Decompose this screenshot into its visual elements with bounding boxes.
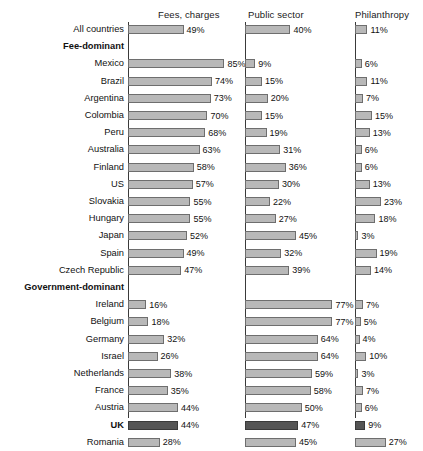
bar — [128, 180, 193, 189]
bar — [245, 145, 280, 154]
bar — [355, 180, 370, 189]
bar-value-label: 32% — [167, 333, 185, 345]
bar — [355, 421, 365, 430]
bar — [245, 180, 279, 189]
bar-value-label: 45% — [299, 436, 317, 448]
bar-value-label: 32% — [284, 247, 302, 259]
bar — [128, 231, 187, 240]
column-header-public-sector: Public sector — [248, 9, 304, 20]
chart-row: UK44%47%9% — [0, 418, 423, 435]
bar-value-label: 11% — [370, 75, 387, 87]
bar-value-label: 6% — [365, 402, 378, 414]
section-header-row: Government-dominant — [0, 280, 423, 297]
bar-value-label: 14% — [374, 264, 392, 276]
bar — [245, 77, 262, 86]
bar — [245, 266, 289, 275]
bar — [245, 94, 268, 103]
bar-value-label: 64% — [321, 333, 339, 345]
bar — [355, 300, 363, 309]
bar-value-label: 19% — [270, 127, 288, 139]
bar-value-label: 4% — [363, 333, 376, 345]
row-label: Belgium — [0, 316, 124, 327]
bar — [128, 25, 184, 34]
bar — [128, 214, 190, 223]
bar-value-label: 77% — [335, 316, 353, 328]
row-label: Spain — [0, 248, 124, 259]
row-label: Australia — [0, 144, 124, 155]
row-label: Hungary — [0, 213, 124, 224]
chart-row: Netherlands38%59%3% — [0, 366, 423, 383]
bar-value-label: 38% — [174, 368, 192, 380]
bar — [245, 197, 270, 206]
bar — [128, 59, 224, 68]
bar — [128, 386, 168, 395]
bar — [245, 352, 318, 361]
chart-row: Japan52%45%3% — [0, 228, 423, 245]
column-header-philanthropy: Philanthropy — [355, 9, 409, 20]
bar — [128, 403, 178, 412]
column-header-fees-charges: Fees, charges — [158, 9, 220, 20]
bar — [245, 128, 267, 137]
bar — [355, 231, 358, 240]
bar — [128, 438, 160, 447]
bar-value-label: 39% — [292, 264, 310, 276]
bar — [245, 335, 318, 344]
bar — [245, 421, 298, 430]
bar — [355, 438, 386, 447]
bar — [245, 317, 332, 326]
bar — [355, 163, 362, 172]
row-label: Ireland — [0, 299, 124, 310]
bar-value-label: 47% — [301, 419, 319, 431]
chart-row: Austria44%50%6% — [0, 400, 423, 417]
bar — [355, 335, 360, 344]
chart-row: Colombia70%15%15% — [0, 108, 423, 125]
bar-value-label: 58% — [314, 385, 332, 397]
bar-value-label: 15% — [265, 75, 283, 87]
bar-value-label: 49% — [187, 24, 205, 36]
bar — [245, 300, 332, 309]
bar-value-label: 44% — [181, 402, 199, 414]
bar-value-label: 58% — [197, 161, 215, 173]
row-label: Germany — [0, 334, 124, 345]
bar-value-label: 57% — [196, 178, 214, 190]
chart-row: US57%30%13% — [0, 177, 423, 194]
bar-value-label: 23% — [384, 196, 402, 208]
bar — [355, 386, 363, 395]
bar-value-label: 68% — [208, 127, 226, 139]
row-label: Netherlands — [0, 368, 124, 379]
row-label: Argentina — [0, 93, 124, 104]
row-label: Fee-dominant — [0, 41, 124, 52]
chart-row: Belgium18%77%5% — [0, 314, 423, 331]
bar-value-label: 55% — [193, 196, 211, 208]
bar-value-label: 50% — [305, 402, 323, 414]
bar — [128, 77, 212, 86]
bar-value-label: 27% — [389, 436, 407, 448]
bar-value-label: 27% — [279, 213, 297, 225]
row-label: Austria — [0, 402, 124, 413]
row-label: Japan — [0, 230, 124, 241]
bar — [355, 249, 377, 258]
bar — [355, 266, 371, 275]
chart-row: Ireland16%77%7% — [0, 297, 423, 314]
bar — [128, 352, 158, 361]
bar — [128, 128, 205, 137]
row-label: Romania — [0, 437, 124, 448]
bar-value-label: 73% — [214, 92, 232, 104]
chart-row: Slovakia55%22%23% — [0, 194, 423, 211]
row-label: Slovakia — [0, 196, 124, 207]
bar-value-label: 3% — [361, 230, 374, 242]
chart-row: Argentina73%20%7% — [0, 91, 423, 108]
bar — [355, 403, 362, 412]
bar — [245, 249, 281, 258]
bar-value-label: 28% — [163, 436, 181, 448]
bar — [128, 266, 181, 275]
bar-value-label: 19% — [380, 247, 398, 259]
bar-value-label: 15% — [375, 110, 393, 122]
row-label: Czech Republic — [0, 265, 124, 276]
bar-value-label: 45% — [299, 230, 317, 242]
bar-value-label: 6% — [365, 161, 378, 173]
bar — [128, 317, 148, 326]
bar-value-label: 59% — [315, 368, 333, 380]
bar — [245, 163, 286, 172]
